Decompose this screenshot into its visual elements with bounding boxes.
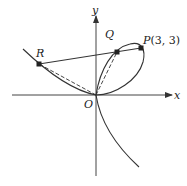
point-q	[115, 50, 120, 55]
x-axis-label: x	[174, 89, 181, 102]
origin-label: O	[84, 98, 93, 111]
y-axis-label: y	[91, 4, 99, 17]
label-p: P(3, 3)	[142, 34, 180, 47]
folium-lower-branch	[96, 95, 139, 167]
point-r	[37, 62, 42, 67]
folium-diagram: y x O R Q P(3, 3)	[0, 0, 187, 186]
folium-left-branch	[23, 49, 96, 95]
dashed-line-or	[39, 64, 96, 95]
dashed-line-oq	[96, 52, 117, 95]
label-r: R	[35, 47, 44, 60]
label-q: Q	[105, 28, 114, 41]
secant-line-rp	[39, 48, 141, 64]
